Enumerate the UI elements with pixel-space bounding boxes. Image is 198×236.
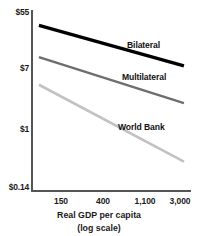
y-axis-tick-2: $1 xyxy=(20,125,29,134)
series-label-multilateral: Multilateral xyxy=(122,72,166,82)
y-axis-tick-1: $7 xyxy=(20,64,29,73)
series-label-world-bank: World Bank xyxy=(118,122,165,132)
series-group xyxy=(39,25,184,161)
x-axis-tick-1: 400 xyxy=(96,196,110,206)
y-axis-line xyxy=(31,10,33,191)
y-axis-tick-3: $0.14 xyxy=(9,183,29,192)
x-axis-title-main: Real GDP per capita xyxy=(57,210,141,220)
x-axis-tick-0: 150 xyxy=(54,196,68,206)
series-label-bilateral: Bilateral xyxy=(127,40,160,50)
x-axis-title-sub: (log scale) xyxy=(0,222,198,235)
x-axis-line xyxy=(31,190,191,192)
chart-container: $55$7$1$0.14 1504001,1003,000 Bilateral … xyxy=(0,0,198,236)
x-axis-tick-2: 1,100 xyxy=(135,196,156,206)
series-line-bilateral xyxy=(39,25,184,66)
y-axis-tick-0: $55 xyxy=(15,8,29,17)
x-axis-tick-3: 3,000 xyxy=(170,196,191,206)
x-axis-title: Real GDP per capita (log scale) xyxy=(0,209,198,234)
